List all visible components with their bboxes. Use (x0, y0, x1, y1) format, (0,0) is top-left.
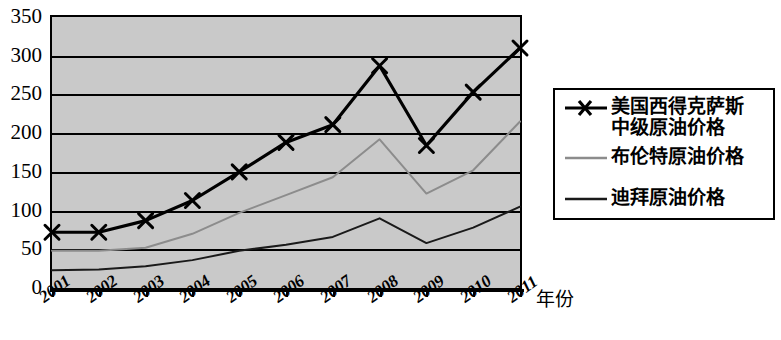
chart-root: 350300250200150100500 200120022003200420… (0, 0, 781, 340)
series-lines (52, 17, 520, 288)
data-point-marker (466, 85, 480, 99)
y-axis-tick-label: 300 (11, 45, 43, 66)
series-line-2 (52, 207, 520, 270)
legend-sample-gray-line-icon (563, 148, 609, 168)
data-point-marker (326, 118, 340, 132)
data-point-marker (185, 194, 199, 208)
y-axis-tick-label: 50 (21, 238, 42, 259)
x-axis-labels: 2001200220032004200520062007200820092010… (0, 292, 545, 340)
legend-label-wti: 美国西得克萨斯 中级原油价格 (611, 96, 744, 138)
data-point-marker (419, 139, 433, 153)
data-point-marker (513, 41, 527, 55)
y-axis-tick-label: 200 (11, 122, 43, 143)
data-point-marker (279, 135, 293, 149)
legend-item-brent: 布伦特原油价格 (563, 146, 744, 168)
legend-label-brent: 布伦特原油价格 (611, 146, 744, 167)
data-point-marker (373, 59, 387, 73)
data-point-marker (232, 165, 246, 179)
legend-sample-dark-line-icon (563, 189, 609, 209)
chart-legend: 美国西得克萨斯 中级原油价格 布伦特原油价格 迪拜原油价格 (553, 88, 775, 220)
plot-area (50, 15, 522, 290)
y-axis-tick-label: 150 (11, 161, 43, 182)
legend-item-wti: 美国西得克萨斯 中级原油价格 (563, 96, 744, 138)
line-chart: 350300250200150100500 200120022003200420… (0, 0, 545, 340)
y-axis-labels: 350300250200150100500 (0, 0, 46, 305)
y-axis-tick-label: 250 (11, 83, 43, 104)
legend-label-dubai: 迪拜原油价格 (611, 187, 725, 208)
legend-item-dubai: 迪拜原油价格 (563, 187, 725, 209)
y-axis-tick-label: 100 (11, 200, 43, 221)
x-axis-title: 年份 (536, 284, 574, 311)
y-axis-tick-label: 350 (11, 6, 43, 27)
series-line-0 (52, 48, 520, 232)
legend-sample-x-marker-icon (563, 98, 609, 118)
